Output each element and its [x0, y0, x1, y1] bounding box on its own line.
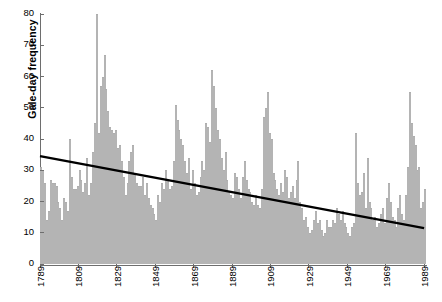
x-tick-label: 1949: [342, 259, 353, 295]
y-tick-mark: [40, 107, 44, 108]
y-tick-mark: [40, 232, 44, 233]
y-tick-label: 70: [23, 38, 34, 49]
y-tick-mark: [40, 170, 44, 171]
x-tick-label: 1909: [265, 259, 276, 295]
x-tick-label: 1829: [111, 259, 122, 295]
x-tick-label: 1809: [73, 259, 84, 295]
x-tick-label: 1929: [303, 259, 314, 295]
gale-day-frequency-chart: Gale-day frequency 010203040506070801789…: [0, 0, 442, 302]
y-tick-mark: [40, 76, 44, 77]
y-tick-label: 60: [23, 70, 34, 81]
plot-area: 0102030405060708017891809182918491869188…: [40, 14, 426, 264]
x-tick-label: 1869: [188, 259, 199, 295]
y-tick-label: 20: [23, 195, 34, 206]
y-tick-mark: [40, 201, 44, 202]
y-tick-label: 10: [23, 226, 34, 237]
y-tick-label: 30: [23, 163, 34, 174]
x-tick-label: 1889: [227, 259, 238, 295]
trend-line: [40, 14, 426, 264]
y-tick-mark: [40, 45, 44, 46]
x-tick-label: 1989: [419, 259, 430, 295]
y-tick-label: 40: [23, 132, 34, 143]
y-tick-label: 0: [29, 257, 34, 268]
x-tick-label: 1849: [150, 259, 161, 295]
x-tick-label: 1789: [35, 259, 46, 295]
y-tick-label: 80: [23, 7, 34, 18]
y-tick-mark: [40, 14, 44, 15]
y-tick-mark: [40, 139, 44, 140]
y-tick-label: 50: [23, 101, 34, 112]
x-tick-label: 1969: [380, 259, 391, 295]
